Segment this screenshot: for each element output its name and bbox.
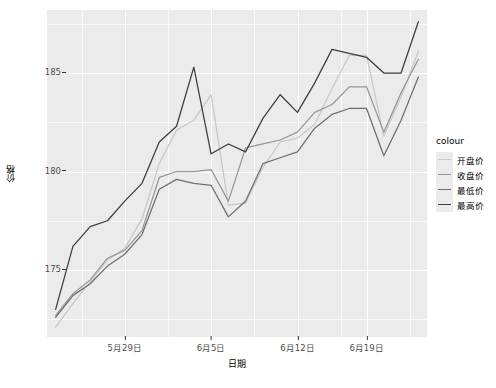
x-tick-label: 6月12日 xyxy=(280,341,314,353)
line-series xyxy=(56,22,419,310)
y-tick-label: 175 xyxy=(45,264,61,274)
x-tick-mark xyxy=(125,336,126,340)
y-tick-label: 185 xyxy=(45,67,61,77)
x-tick-mark xyxy=(367,336,368,340)
line-series xyxy=(56,59,419,315)
legend-title: colour xyxy=(436,136,494,146)
legend-key-swatch xyxy=(436,197,453,212)
x-tick-label: 6月5日 xyxy=(197,341,226,353)
legend: colour 开盘价收盘价最低价最高价 xyxy=(436,136,494,212)
chart-root: { "chart_data": { "type": "line", "title… xyxy=(0,0,496,388)
line-series xyxy=(56,77,419,317)
y-tick-mark xyxy=(62,72,66,73)
legend-item-label: 最低价 xyxy=(457,184,484,196)
legend-item[interactable]: 开盘价 xyxy=(436,152,494,167)
legend-item-label: 开盘价 xyxy=(457,154,484,166)
plot-panel xyxy=(47,10,427,337)
legend-item-label: 最高价 xyxy=(457,199,484,211)
series-lines xyxy=(47,10,427,337)
x-tick-mark xyxy=(297,336,298,340)
legend-items: 开盘价收盘价最低价最高价 xyxy=(436,152,494,212)
legend-key-swatch xyxy=(436,152,453,167)
legend-key-swatch xyxy=(436,182,453,197)
y-tick-label: 180 xyxy=(45,166,61,176)
y-axis-label: 价格 xyxy=(2,0,16,347)
legend-item-label: 收盘价 xyxy=(457,169,484,181)
y-tick-mark xyxy=(62,269,66,270)
x-tick-mark xyxy=(211,336,212,340)
x-axis-label: 日期 xyxy=(47,357,427,370)
line-series xyxy=(56,51,419,327)
legend-item[interactable]: 收盘价 xyxy=(436,167,494,182)
legend-key-swatch xyxy=(436,167,453,182)
legend-item[interactable]: 最低价 xyxy=(436,182,494,197)
x-tick-label: 5月29日 xyxy=(108,341,142,353)
x-tick-label: 6月19日 xyxy=(349,341,383,353)
legend-item[interactable]: 最高价 xyxy=(436,197,494,212)
y-tick-mark xyxy=(62,170,66,171)
